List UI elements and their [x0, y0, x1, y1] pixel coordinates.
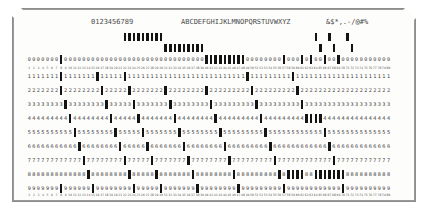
row-digit: 5 [386, 129, 391, 135]
card-cell: 0 [386, 54, 391, 65]
card-cell [386, 31, 391, 42]
punch-row-11 [27, 42, 392, 53]
punch-row-0: 0000000000000000000000000000000000000000… [27, 54, 392, 65]
card-cell [386, 42, 391, 53]
row-digit: 4 [386, 115, 391, 121]
column-number: 80 [386, 193, 391, 198]
card-cell: 6 [386, 141, 391, 152]
punch-row-6: 6666666666666666666666666666666666666666… [27, 141, 392, 152]
row-digit: 8 [386, 171, 391, 177]
card-cell: 8 [386, 169, 391, 180]
punch-row-2: 2222222222222222222222222222222222222222… [27, 85, 392, 96]
card-cell: 7 [386, 155, 391, 166]
row-digit: 2 [386, 87, 391, 93]
punch-grid: 0000000000000000000000000000000000000000… [13, 9, 417, 203]
punch-card-scene: 0123456789 ABCDEFGHIJKLMNOPQRSTUVWXYZ &$… [0, 0, 428, 210]
punch-row-5: 5555555555555555555555555555555555555555… [27, 127, 392, 138]
row-digit: 7 [386, 157, 391, 163]
row-digit: 1 [386, 73, 391, 79]
punch-row-8: 8888888888888888888888888888888888888888… [27, 169, 392, 180]
punch-row-3: 3333333333333333333333333333333333333333… [27, 99, 392, 110]
column-number-strip-bottom: 1234567891011121314151617181920212223242… [27, 193, 392, 198]
card-cell: 1 [386, 71, 391, 82]
card-cell: 4 [386, 113, 391, 124]
punched-card: 0123456789 ABCDEFGHIJKLMNOPQRSTUVWXYZ &$… [12, 8, 416, 202]
row-digit: 0 [386, 56, 391, 62]
card-cell: 3 [386, 99, 391, 110]
row-digit: 3 [386, 101, 391, 107]
punch-row-1: 1111111111111111111111111111111111111111… [27, 71, 392, 82]
punch-row-7: 7777777777777777777777777777777777777777… [27, 155, 392, 166]
card-cell: 5 [386, 127, 391, 138]
card-cell: 2 [386, 85, 391, 96]
row-digit: 6 [386, 143, 391, 149]
punch-row-4: 4444444444444444444444444444444444444444… [27, 113, 392, 124]
punch-row-12 [27, 31, 392, 42]
row-digit: 9 [386, 185, 391, 191]
